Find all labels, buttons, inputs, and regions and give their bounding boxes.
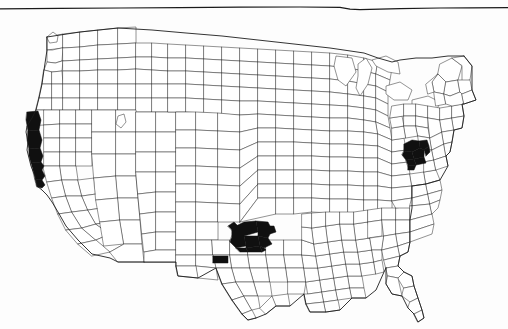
us-county-choropleth xyxy=(0,0,508,329)
highlight-county-ca-3 xyxy=(29,148,43,163)
map-figure xyxy=(0,0,508,329)
page-rule-line xyxy=(0,7,508,10)
highlight-county-tx-strip xyxy=(213,256,228,263)
highlight-county-ca-4 xyxy=(31,162,44,170)
county-layer xyxy=(26,27,476,322)
highlight-county-ca-2 xyxy=(27,130,42,149)
highlight-county-pa-8 xyxy=(408,165,416,170)
